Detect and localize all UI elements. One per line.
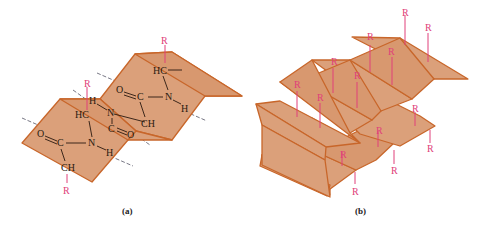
panel-a-diagram: R HC N C O H CH R H N C O HC N C O H (22, 35, 242, 216)
atom-label: HC (153, 65, 167, 76)
r-group-label: R (294, 79, 301, 90)
r-group-label: R (402, 7, 409, 18)
panel-b-caption: (b) (355, 206, 366, 216)
atom-label: HC (75, 109, 89, 120)
r-group-label: R (427, 143, 434, 154)
atom-label: H (106, 147, 113, 158)
panel-b-diagram: R R R R R R R R R R R R R R (b) (256, 7, 468, 216)
r-group-label: R (412, 103, 419, 114)
atom-label: C (108, 123, 115, 134)
atom-label: CH (61, 162, 75, 173)
beta-sheet-figure: R HC N C O H CH R H N C O HC N C O H (0, 0, 494, 232)
atom-label: C (57, 137, 64, 148)
r-group-label: R (317, 92, 324, 103)
r-group-label: R (388, 46, 395, 57)
atom-label: O (116, 84, 123, 95)
r-group-label: R (391, 165, 398, 176)
atom-label: N (107, 107, 114, 118)
r-group-label: R (84, 78, 91, 89)
atom-label: N (88, 137, 95, 148)
r-group-label: R (425, 22, 432, 33)
r-group-label: R (331, 56, 338, 67)
r-group-label: R (352, 186, 359, 197)
figure-drawing: R HC N C O H CH R H N C O HC N C O H (0, 0, 494, 232)
r-group-label: R (354, 70, 361, 81)
atom-label: CH (141, 118, 155, 129)
r-group-label: R (367, 31, 374, 42)
atom-label: H (181, 103, 188, 114)
r-group-label: R (376, 125, 383, 136)
r-group-label: R (63, 185, 70, 196)
panel-a-caption: (a) (122, 206, 133, 216)
atom-label: O (37, 128, 44, 139)
r-group-label: R (340, 149, 347, 160)
atom-label: C (137, 91, 144, 102)
atom-label: O (127, 129, 134, 140)
atom-label: N (165, 91, 172, 102)
atom-label: H (89, 95, 96, 106)
r-group-label: R (161, 35, 168, 46)
